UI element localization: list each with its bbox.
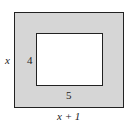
inner-rectangle — [36, 33, 103, 86]
inner-height-label: 4 — [27, 55, 33, 66]
inner-width-label: 5 — [66, 90, 72, 101]
outer-height-label: x — [5, 55, 10, 66]
outer-width-label: x + 1 — [57, 111, 80, 122]
